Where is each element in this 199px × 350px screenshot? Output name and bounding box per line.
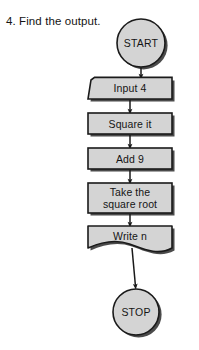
node-sqrt-label-line1: Take the [110, 186, 151, 198]
connector-write-to-stop [132, 248, 136, 287]
node-square[interactable]: Square it [88, 113, 175, 137]
node-stop-label: STOP [121, 306, 150, 318]
node-write[interactable]: Write n [88, 226, 175, 254]
flowchart-page: 4. Find the output. START Input 4 Squ [0, 0, 199, 350]
node-sqrt-label-line2: square root [103, 198, 157, 210]
node-add[interactable]: Add 9 [88, 148, 175, 172]
node-sqrt[interactable]: Take the square root [88, 183, 175, 216]
node-add-label: Add 9 [116, 153, 144, 165]
node-input-label: Input 4 [114, 82, 147, 94]
flowchart-diagram: START Input 4 Square it Add 9 [0, 0, 199, 350]
node-square-label: Square it [109, 118, 152, 130]
node-start-label: START [124, 37, 159, 49]
node-input[interactable]: Input 4 [88, 77, 175, 101]
node-write-label: Write n [113, 230, 147, 242]
node-start[interactable]: START [117, 19, 168, 69]
node-stop[interactable]: STOP [113, 289, 162, 337]
